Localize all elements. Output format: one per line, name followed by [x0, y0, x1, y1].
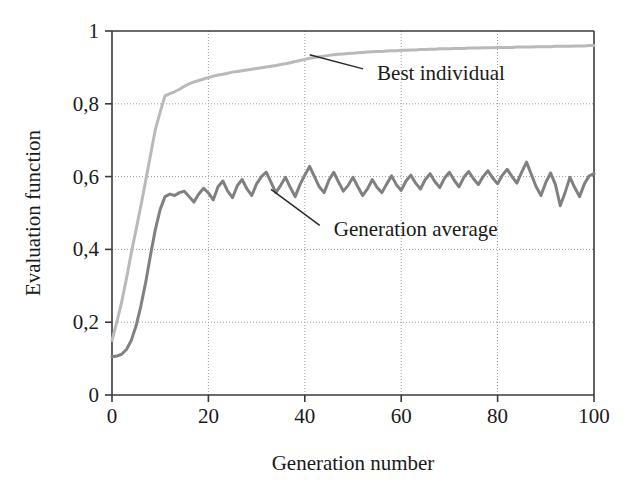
x-axis-tick-label: 60 [391, 404, 412, 428]
y-axis-tick-label: 0,2 [73, 310, 99, 334]
y-axis-tick-label: 0,6 [73, 165, 99, 189]
x-axis-tick-label: 0 [107, 404, 118, 428]
x-axis-tick-label: 40 [294, 404, 315, 428]
y-axis-tick-label: 0,4 [73, 237, 100, 261]
y-axis-tick-label: 0,8 [73, 92, 99, 116]
annotation-label-best-individual: Best individual [377, 61, 505, 85]
x-axis-title: Generation number [272, 451, 435, 475]
y-axis-title: Evaluation function [21, 129, 45, 296]
y-axis-tick-label: 1 [89, 19, 100, 43]
evaluation-function-line-chart: 00,20,40,60,81020406080100 Best individu… [0, 0, 637, 484]
annotation-label-generation-average: Generation average [334, 217, 498, 241]
x-axis-tick-label: 80 [487, 404, 508, 428]
x-axis-tick-label: 20 [198, 404, 219, 428]
y-axis-tick-label: 0 [89, 383, 100, 407]
chart-figure: 00,20,40,60,81020406080100 Best individu… [0, 0, 637, 484]
x-axis-tick-label: 100 [578, 404, 610, 428]
